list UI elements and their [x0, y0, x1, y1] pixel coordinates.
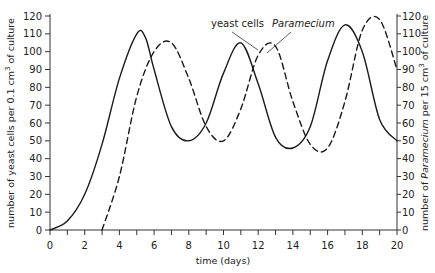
x-tick-label: 2 [82, 240, 88, 251]
curves [50, 16, 397, 230]
y-tick-label-left: 0 [36, 225, 42, 236]
y-tick-label-right: 20 [402, 189, 415, 200]
x-tick-label: 14 [287, 240, 300, 251]
y-tick-label-left: 120 [23, 11, 42, 22]
x-tick-label: 18 [356, 240, 369, 251]
legend-yeast: yeast cells [211, 18, 264, 50]
y-axis-left-title: number of yeast cells per 0.1 cm3 of cul… [4, 18, 16, 228]
x-tick-label: 0 [47, 240, 53, 251]
y-tick-label-left: 70 [29, 100, 42, 111]
y-tick-label-right: 10 [402, 207, 415, 218]
x-tick-label: 4 [116, 240, 122, 251]
y-tick-label-right: 60 [402, 118, 415, 129]
x-tick-label: 20 [391, 240, 404, 251]
y-tick-label-left: 50 [29, 135, 42, 146]
y-tick-label-left: 110 [23, 28, 42, 39]
legend-yeast-label: yeast cells [211, 18, 264, 29]
x-tick-label: 10 [217, 240, 230, 251]
y-tick-label-left: 60 [29, 118, 42, 129]
y-tick-label-right: 30 [402, 171, 415, 182]
y-tick-label-right: 90 [402, 64, 415, 75]
x-tick-label: 16 [321, 240, 334, 251]
axes: 0246810121416182001020304050607080901001… [23, 11, 421, 252]
x-axis-title: time (days) [196, 255, 250, 266]
line-chart: 0246810121416182001020304050607080901001… [0, 0, 435, 273]
y-tick-label-left: 40 [29, 153, 42, 164]
y-tick-label-right: 50 [402, 135, 415, 146]
y-tick-label-left: 90 [29, 64, 42, 75]
y-tick-label-right: 70 [402, 100, 415, 111]
legend-paramecium-label: Paramecium [272, 18, 335, 29]
y-tick-label-right: 80 [402, 82, 415, 93]
y-tick-label-left: 100 [23, 46, 42, 57]
y-axis-right-title: number of Paramecium per 15 cm3 of cultu… [418, 15, 430, 231]
y-tick-label-right: 40 [402, 153, 415, 164]
y-tick-label-left: 30 [29, 171, 42, 182]
yeast-curve [50, 25, 397, 230]
x-tick-label: 8 [186, 240, 192, 251]
paramecium-curve [102, 16, 397, 230]
x-tick-label: 12 [252, 240, 265, 251]
y-tick-label-left: 10 [29, 207, 42, 218]
y-tick-label-right: 0 [402, 225, 408, 236]
x-tick-label: 6 [151, 240, 157, 251]
y-tick-label-left: 20 [29, 189, 42, 200]
y-tick-label-left: 80 [29, 82, 42, 93]
